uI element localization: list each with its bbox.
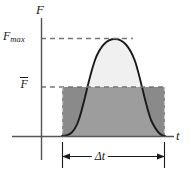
duration-label: Δt [92,150,108,162]
f-average-label: F [20,78,28,90]
impulse-rectangle-overlay [62,87,165,136]
x-axis-label: t [176,129,180,142]
f-max-label: Fmax [3,30,25,44]
duration-dimension-line [62,142,165,168]
y-axis-label: F [36,3,44,16]
f-max-subscript: max [10,34,24,44]
f-average-symbol: F [20,78,28,90]
force-time-figure: F t Fmax F Δt [0,0,195,177]
